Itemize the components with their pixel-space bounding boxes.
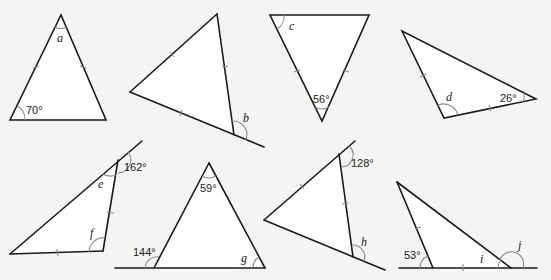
angle-label-d: d xyxy=(446,90,453,104)
triangle-ef: 162° e f xyxy=(10,141,147,256)
triangle-d: d 26° xyxy=(402,31,536,118)
triangle-b: b xyxy=(130,14,264,147)
angle-label-26: 26° xyxy=(500,92,517,104)
angle-label-g: g xyxy=(241,251,247,265)
angle-label-59: 59° xyxy=(200,182,217,194)
angle-label-70: 70° xyxy=(26,104,43,116)
angle-arc xyxy=(420,256,428,268)
triangle-ij: 53° i j xyxy=(397,182,537,271)
angle-label-i: i xyxy=(480,252,483,266)
angle-label-144: 144° xyxy=(133,246,156,258)
triangle-g: 59° 144° g xyxy=(115,163,265,268)
angle-label-e: e xyxy=(98,177,104,191)
angle-label-56: 56° xyxy=(313,93,330,105)
angle-label-h: h xyxy=(361,235,367,249)
triangle-a: a 70° xyxy=(10,15,106,120)
triangle-c: c 56° xyxy=(270,15,369,121)
triangle-angle-exercises: a 70° b c 56° d 26° xyxy=(0,0,551,280)
diagram-canvas: a 70° b c 56° d 26° xyxy=(0,0,551,280)
angle-label-a: a xyxy=(57,31,63,45)
angle-label-j: j xyxy=(516,238,522,252)
triangle-h: 128° h xyxy=(264,141,385,270)
angle-label-c: c xyxy=(289,19,295,33)
angle-label-53: 53° xyxy=(404,249,421,261)
angle-label-128: 128° xyxy=(351,157,374,169)
angle-label-162: 162° xyxy=(124,161,147,173)
angle-label-b: b xyxy=(243,111,249,125)
